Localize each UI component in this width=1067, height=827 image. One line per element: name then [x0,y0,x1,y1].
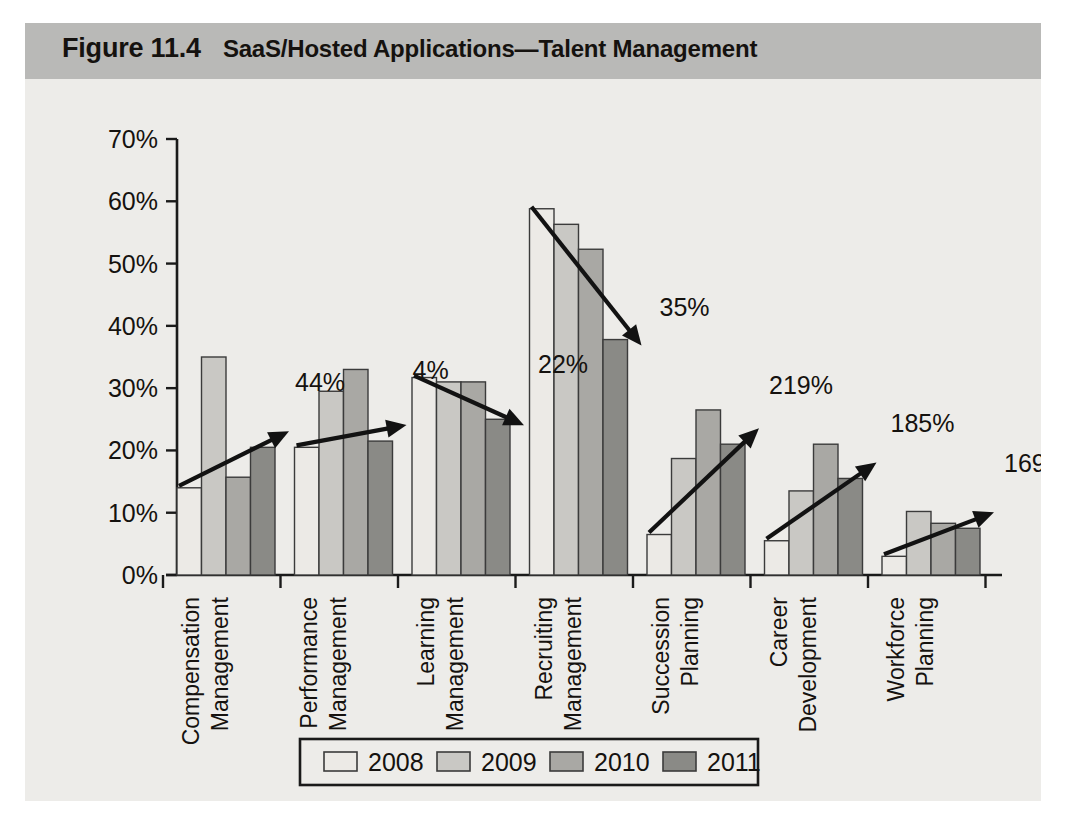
category-label: Management [207,596,233,731]
growth-annotation-label: 185% [891,409,955,437]
y-axis-tick-label: 20% [108,436,158,464]
category-label: Workforce [883,597,909,701]
figure-title: Figure 11.4SaaS/Hosted Applications—Tale… [62,33,757,64]
growth-arrow-head [972,511,994,528]
bar-2008-compensation-management [177,488,202,575]
legend-label-2008: 2008 [368,748,424,776]
category-label: Management [442,596,468,731]
y-axis-tick-label: 50% [108,250,158,278]
bar-2011-compensation-management [251,447,276,575]
growth-annotation-label: 169% [1004,449,1041,477]
bar-2009-career-development [789,491,814,575]
category-label: Planning [677,597,703,687]
legend-swatch-2008[interactable] [324,752,357,771]
bar-2009-succession-planning [672,459,697,575]
category-label: Learning [413,597,439,687]
chart-plot-area: 0%10%20%30%40%50%60%70% 44%4%22%35%219%1… [25,79,1041,801]
category-label: Planning [912,597,938,687]
growth-annotation-label: 22% [538,350,588,378]
figure-title-band: Figure 11.4SaaS/Hosted Applications—Tale… [25,23,1041,79]
bar-2010-learning-management [461,382,486,575]
growth-arrow-head [385,420,406,438]
bar-2011-learning-management [486,419,511,575]
legend-label-2010: 2010 [594,748,650,776]
bar-2008-workforce-planning [882,556,907,575]
bar-chart: 0%10%20%30%40%50%60%70% 44%4%22%35%219%1… [25,79,1041,801]
bar-2011-recruiting-management [603,340,628,575]
growth-annotation-label: 219% [769,371,833,399]
bar-2008-recruiting-management [530,209,555,575]
y-axis-tick-label: 0% [122,561,158,589]
category-label: Performance [296,597,322,729]
category-label: Recruiting [531,597,557,701]
growth-annotation-label: 44% [295,368,345,396]
y-axis-tick-label: 60% [108,187,158,215]
growth-annotation-label: 4% [413,356,449,384]
chart-legend: 2008200920102011 [300,739,761,785]
y-axis-tick-label: 30% [108,374,158,402]
y-axis-tick-label: 10% [108,499,158,527]
category-labels-group: CompensationManagementPerformanceManagem… [178,596,938,745]
bar-2010-recruiting-management [579,249,604,575]
y-axis-tick-label: 70% [108,125,158,153]
figure-title-text: SaaS/Hosted Applications—Talent Manageme… [223,35,757,62]
growth-annotation-label: 35% [660,293,710,321]
category-label: Succession [648,597,674,715]
category-label: Compensation [178,597,204,745]
figure-number: Figure 11.4 [62,33,201,63]
bar-2008-career-development [765,541,790,575]
bar-2009-recruiting-management [554,224,579,575]
bar-2010-performance-management [344,369,369,575]
legend-label-2009: 2009 [481,748,537,776]
category-label: Management [560,596,586,731]
bar-2010-succession-planning [696,410,721,575]
bar-2009-learning-management [437,382,462,575]
bar-2011-performance-management [368,441,393,575]
annotation-labels-group: 44%4%22%35%219%185%169% [295,293,1041,478]
bar-2010-compensation-management [226,477,251,575]
legend-swatch-2009[interactable] [437,752,470,771]
legend-label-2011: 2011 [707,748,761,776]
category-label: Management [325,596,351,731]
bar-2009-performance-management [319,391,344,575]
bar-2010-career-development [814,444,839,575]
y-axis: 0%10%20%30%40%50%60%70% [108,125,177,589]
category-label: Career [766,597,792,668]
bar-2008-succession-planning [647,535,672,575]
figure-container: Figure 11.4SaaS/Hosted Applications—Tale… [25,23,1041,801]
x-axis [163,575,1002,588]
bar-2011-career-development [838,478,863,575]
category-label: Development [795,596,821,732]
y-axis-tick-label: 40% [108,312,158,340]
bar-2008-performance-management [295,447,320,575]
legend-swatch-2010[interactable] [550,752,583,771]
bar-2008-learning-management [412,378,437,575]
bar-2011-workforce-planning [956,528,981,575]
legend-swatch-2011[interactable] [663,752,696,771]
